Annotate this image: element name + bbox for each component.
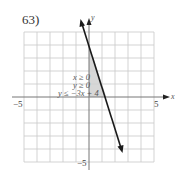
line-arrow-top-icon xyxy=(80,19,86,27)
y-tick-neg5: −5 xyxy=(77,158,87,168)
x-tick-5: 5 xyxy=(154,99,159,109)
x-axis-label: x xyxy=(171,92,175,101)
inequality-3: y ≤ −3x + 4 xyxy=(58,89,99,98)
y-axis-label: y xyxy=(91,13,95,22)
x-tick-neg5: −5 xyxy=(13,99,23,109)
x-axis-arrow-icon xyxy=(163,95,170,100)
